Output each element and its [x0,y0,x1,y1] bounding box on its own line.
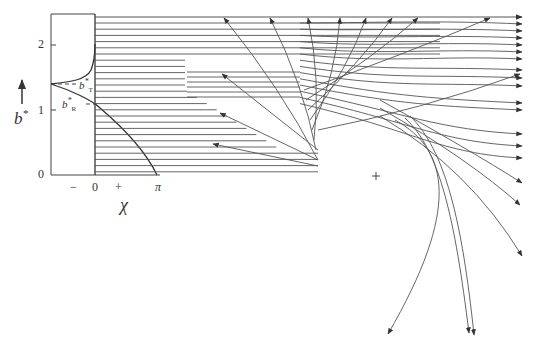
b-r-label-star: * [68,96,72,105]
y-axis-label-b: b [14,109,23,128]
deflection-plot-box [51,14,160,175]
x-tick-plus: + [115,181,122,193]
y-tick-0: 0 [38,168,44,180]
x-tick-zero: 0 [92,181,98,193]
b-r-label: b*R [62,97,76,113]
x-tick-pi: π [155,181,161,193]
b-r-label-sub: R [72,105,77,113]
y-axis-label: b* [14,108,28,127]
y-tick-2: 2 [38,38,44,50]
ray-diagram [0,0,535,348]
y-tick-1: 1 [38,104,44,116]
x-tick-minus: − [70,181,77,193]
b-t-label-star: * [85,77,89,86]
b-t-label: b*T [79,78,93,94]
b-t-label-sub: T [89,86,93,94]
scattering-center-marker [372,172,380,180]
scattered-rays [213,18,522,335]
y-axis-label-star: * [23,107,29,119]
x-axis-label: χ [120,196,128,214]
